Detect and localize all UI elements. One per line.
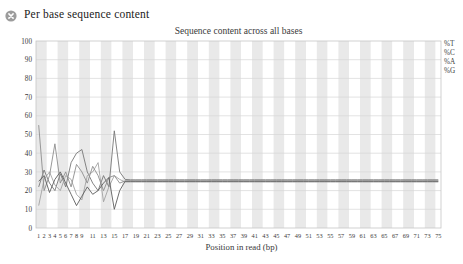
x-tick-label: 51 <box>306 232 312 239</box>
x-tick-label: 2 <box>43 232 46 239</box>
x-tick-label: 35 <box>219 232 225 239</box>
x-tick-label: 29 <box>187 232 193 239</box>
x-tick-label: 23 <box>154 232 160 239</box>
x-tick-label: 67 <box>392 232 398 239</box>
x-tick-label: 69 <box>403 232 409 239</box>
y-tick-label: 0 <box>28 225 32 233</box>
x-tick-label: 39 <box>241 232 247 239</box>
x-tick-label: 57 <box>338 232 344 239</box>
legend-label-A: %A <box>444 58 456 66</box>
chart-title: Sequence content across all bases <box>175 26 303 36</box>
x-tick-label: 8 <box>75 232 78 239</box>
x-tick-label: 47 <box>284 232 290 239</box>
x-tick-label: 3 <box>48 232 51 239</box>
x-tick-label: 37 <box>230 232 236 239</box>
x-tick-label: 59 <box>349 232 355 239</box>
x-tick-label: 4 <box>53 232 57 239</box>
x-tick-label: 19 <box>133 232 139 239</box>
y-tick-label: 100 <box>21 38 32 46</box>
x-tick-label: 33 <box>208 232 214 239</box>
x-tick-label: 75 <box>435 232 441 239</box>
legend-label-G: %G <box>444 67 455 75</box>
x-tick-label: 13 <box>100 232 106 239</box>
x-tick-label: 31 <box>198 232 204 239</box>
x-tick-label: 53 <box>316 232 322 239</box>
fail-x-icon <box>5 8 17 20</box>
x-tick-label: 5 <box>59 232 62 239</box>
x-tick-label: 43 <box>262 232 268 239</box>
legend-label-C: %C <box>444 49 455 57</box>
x-tick-label: 25 <box>165 232 171 239</box>
y-tick-label: 20 <box>25 187 33 195</box>
fastqc-report-section: Per base sequence content 01020304050607… <box>0 0 463 264</box>
y-tick-label: 90 <box>25 56 33 64</box>
y-tick-label: 30 <box>25 169 33 177</box>
x-tick-label: 1 <box>37 232 40 239</box>
section-title: Per base sequence content <box>24 8 149 20</box>
x-tick-label: 73 <box>424 232 430 239</box>
x-tick-label: 15 <box>111 232 117 239</box>
y-tick-label: 10 <box>25 206 33 214</box>
x-tick-label: 7 <box>70 232 73 239</box>
y-tick-label: 60 <box>25 112 33 120</box>
x-axis-label: Position in read (bp) <box>205 242 277 252</box>
legend-label-T: %T <box>444 40 455 48</box>
x-tick-label: 61 <box>360 232 366 239</box>
x-tick-label: 45 <box>273 232 279 239</box>
x-tick-label: 27 <box>176 232 182 239</box>
x-tick-label: 63 <box>370 232 376 239</box>
x-tick-label: 21 <box>144 232 150 239</box>
y-tick-label: 40 <box>25 150 33 158</box>
y-tick-label: 80 <box>25 75 33 83</box>
x-tick-label: 41 <box>252 232 258 239</box>
x-tick-label: 9 <box>80 232 83 239</box>
x-tick-label: 6 <box>64 232 67 239</box>
x-tick-label: 71 <box>414 232 420 239</box>
y-tick-label: 50 <box>25 131 33 139</box>
section-header: Per base sequence content <box>5 8 149 20</box>
x-tick-label: 11 <box>90 232 96 239</box>
x-tick-label: 17 <box>122 232 128 239</box>
y-tick-label: 70 <box>25 94 33 102</box>
x-tick-label: 49 <box>295 232 301 239</box>
x-tick-label: 65 <box>381 232 387 239</box>
x-tick-label: 55 <box>327 232 333 239</box>
sequence-content-chart: 0102030405060708090100123456789111315171… <box>0 0 463 264</box>
